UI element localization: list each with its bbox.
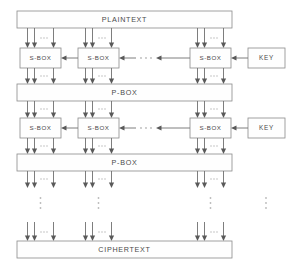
plaintext-label: PLAINTEXT (102, 15, 147, 24)
spn-diagram: PLAINTEXT (0, 0, 293, 271)
bus-col3-r2-out (195, 138, 226, 154)
wire-group-sbox2-to-pbox2 (25, 138, 226, 154)
wire-group-sbox1-to-pbox1 (25, 68, 226, 84)
ciphertext-block: CIPHERTEXT (17, 241, 232, 258)
pbox-label: P-BOX (112, 88, 138, 97)
bus-col2-r2-in (83, 101, 114, 118)
bus-col3-r1-out (195, 68, 226, 84)
key-label: KEY (259, 54, 274, 61)
bus-col2-pbox2-out (83, 171, 114, 188)
key-label: KEY (259, 124, 274, 131)
bus-col1-ciphertext-in (25, 222, 56, 241)
wire-group-pbox2-out (25, 171, 226, 188)
bus-col1-r1-in (25, 28, 56, 48)
bus-col1-pbox2-out (25, 171, 56, 188)
bus-col1-r1-out (25, 68, 56, 84)
wire-group-to-ciphertext (25, 222, 226, 241)
spn-diagram-canvas: PLAINTEXT (0, 0, 293, 271)
sbox-label: S-BOX (30, 124, 52, 131)
sbox-label: S-BOX (88, 54, 110, 61)
pbox-label: P-BOX (112, 158, 138, 167)
bus-col2-ciphertext-in (83, 222, 114, 241)
ciphertext-label: CIPHERTEXT (98, 245, 150, 254)
bus-col3-r1-in (195, 28, 226, 48)
bus-col1-r2-in (25, 101, 56, 118)
sbox-label: S-BOX (200, 124, 222, 131)
bus-col2-r1-out (83, 68, 114, 84)
bus-col2-r2-out (83, 138, 114, 154)
bus-col3-ciphertext-in (195, 222, 226, 241)
sbox-label: S-BOX (30, 54, 52, 61)
pbox-1-block: P-BOX (17, 84, 232, 101)
bus-col1-r2-out (25, 138, 56, 154)
sbox-label: S-BOX (88, 124, 110, 131)
rounds-continue-ellipsis (40, 197, 267, 209)
bus-col2-r1-in (83, 28, 114, 48)
wire-group-pbox1-to-sbox2 (25, 101, 226, 118)
sbox-label: S-BOX (200, 54, 222, 61)
plaintext-block: PLAINTEXT (17, 11, 232, 28)
bus-col3-pbox2-out (195, 171, 226, 188)
pbox-2-block: P-BOX (17, 154, 232, 171)
wire-group-plaintext-to-sbox1 (25, 28, 226, 48)
bus-col3-r2-in (195, 101, 226, 118)
